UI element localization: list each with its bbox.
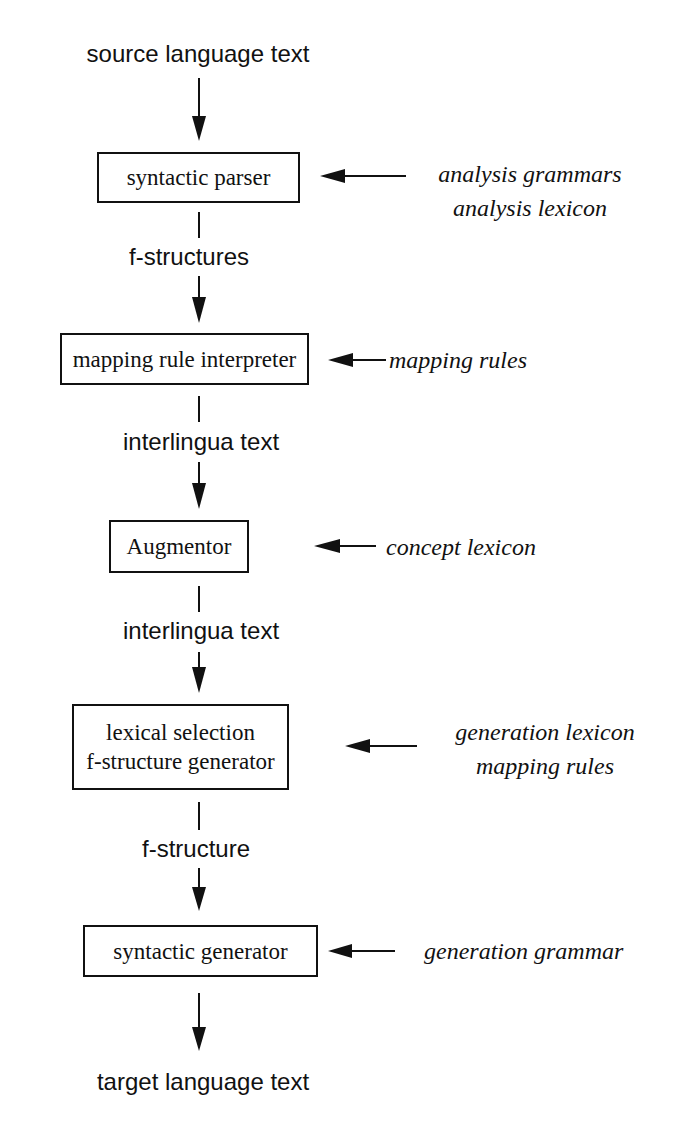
module-label: lexical selection [106,718,255,747]
intermediate-label: f-structure [142,835,250,863]
module-label: syntactic parser [127,163,271,192]
module-augmentor: Augmentor [109,520,249,573]
input-label: source language text [87,40,310,68]
module-label: syntactic generator [113,937,287,966]
resource-lexical: generation lexicon mapping rules [420,715,670,783]
resource-generator: generation grammar [424,934,623,968]
resource-label: mapping rules [389,343,527,377]
module-label: f-structure generator [86,747,274,776]
intermediate-label: interlingua text [123,617,279,645]
resource-label: analysis lexicon [405,191,655,225]
module-syntactic-generator: syntactic generator [83,925,318,977]
resource-mapping: mapping rules [389,343,527,377]
intermediate-label: f-structures [129,243,249,271]
module-mapping-rule-interpreter: mapping rule interpreter [60,333,309,385]
resource-label: mapping rules [420,749,670,783]
resource-parser: analysis grammars analysis lexicon [405,157,655,225]
module-label: Augmentor [127,532,232,561]
output-label: target language text [97,1068,309,1096]
resource-label: analysis grammars [405,157,655,191]
resource-label: concept lexicon [386,530,536,564]
resource-label: generation grammar [424,934,623,968]
resource-augmentor: concept lexicon [386,530,536,564]
module-lexical-selection-generator: lexical selection f-structure generator [72,704,289,790]
intermediate-label: interlingua text [123,428,279,456]
module-syntactic-parser: syntactic parser [97,152,300,203]
module-label: mapping rule interpreter [73,345,297,374]
resource-label: generation lexicon [420,715,670,749]
